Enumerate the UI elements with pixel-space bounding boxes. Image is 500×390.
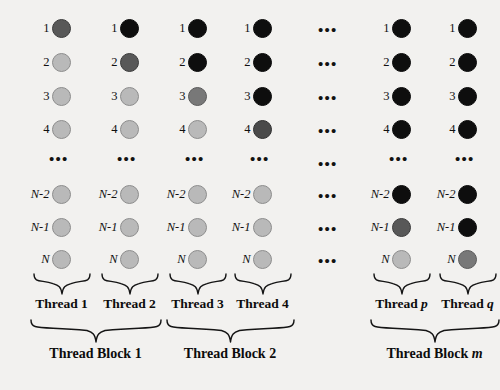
element-index-label: N-1	[232, 221, 251, 234]
element-dot-light	[188, 120, 207, 139]
grid-cell: N-2	[7, 183, 71, 205]
element-dot-black	[253, 87, 272, 106]
thread-brace	[169, 273, 227, 295]
grid-cell: 3	[413, 85, 477, 107]
element-dot-light	[188, 218, 207, 237]
thread-block-label-block-1: Thread Block 1	[26, 347, 166, 361]
grid-cell: 4	[208, 118, 272, 140]
element-dot-light	[253, 250, 272, 269]
element-dot-black	[253, 53, 272, 72]
grid-cell: N	[347, 248, 411, 270]
element-dot-black	[392, 87, 411, 106]
grid-cell: 1	[75, 17, 139, 39]
element-index-label: 2	[383, 56, 389, 69]
thread-block-label-block-m: Thread Block m	[365, 347, 500, 361]
element-index-label: 1	[383, 22, 389, 35]
grid-cell: N	[413, 248, 477, 270]
column-ellipsis: •••	[318, 157, 337, 172]
element-dot-black	[458, 218, 477, 237]
grid-cell: N-2	[347, 183, 411, 205]
element-dot-light	[188, 250, 207, 269]
element-index-label: N-1	[99, 221, 118, 234]
element-index-label: 1	[43, 22, 49, 35]
element-dot-black	[458, 185, 477, 204]
grid-cell: 1	[143, 17, 207, 39]
element-index-label: N-2	[99, 188, 118, 201]
element-index-label: 2	[111, 56, 117, 69]
element-dot-light	[52, 250, 71, 269]
element-index-label: 3	[449, 90, 455, 103]
column-ellipsis: •••	[318, 23, 337, 38]
column-row-ellipsis: •••	[117, 152, 136, 167]
grid-cell: 1	[7, 17, 71, 39]
column-row-ellipsis: •••	[250, 152, 269, 167]
element-index-label: 2	[449, 56, 455, 69]
thread-label-thread-4: Thread 4	[217, 297, 309, 311]
element-index-label: N-2	[437, 188, 456, 201]
element-index-label: N	[109, 253, 117, 266]
element-dot-light	[120, 120, 139, 139]
grid-cell: 4	[413, 118, 477, 140]
thread-block-brace	[30, 319, 162, 343]
element-index-label: 1	[179, 22, 185, 35]
element-dot-light	[52, 53, 71, 72]
element-dot-black	[458, 19, 477, 38]
grid-cell: 3	[143, 85, 207, 107]
grid-cell: N-1	[75, 216, 139, 238]
thread-brace	[101, 273, 159, 295]
element-dot-light	[253, 185, 272, 204]
element-index-label: 1	[244, 22, 250, 35]
column-ellipsis: •••	[318, 91, 337, 106]
column-row-ellipsis: •••	[49, 152, 68, 167]
element-dot-black	[392, 120, 411, 139]
grid-cell: N-2	[413, 183, 477, 205]
element-dot-mid2	[188, 87, 207, 106]
grid-cell: 1	[208, 17, 272, 39]
element-dot-black	[392, 53, 411, 72]
element-dot-black	[392, 19, 411, 38]
element-index-label: 3	[111, 90, 117, 103]
grid-cell: 2	[413, 51, 477, 73]
grid-cell: N-2	[208, 183, 272, 205]
element-dot-black	[392, 185, 411, 204]
grid-cell: N-1	[347, 216, 411, 238]
element-index-label: N-1	[167, 221, 186, 234]
element-index-label: 1	[111, 22, 117, 35]
grid-cell: 4	[7, 118, 71, 140]
thread-brace	[234, 273, 292, 295]
grid-cell: N-1	[143, 216, 207, 238]
element-index-label: N-2	[232, 188, 251, 201]
element-dot-light	[120, 250, 139, 269]
element-index-label: 4	[179, 123, 185, 136]
element-index-label: N	[177, 253, 185, 266]
thread-block-brace	[370, 319, 500, 343]
element-dot-light	[52, 120, 71, 139]
element-index-label: 4	[43, 123, 49, 136]
grid-cell: N	[75, 248, 139, 270]
element-dot-light	[392, 250, 411, 269]
grid-cell: 4	[143, 118, 207, 140]
grid-cell: 4	[75, 118, 139, 140]
column-ellipsis: •••	[318, 254, 337, 269]
element-dot-black	[253, 19, 272, 38]
column-ellipsis: •••	[318, 222, 337, 237]
element-index-label: 3	[179, 90, 185, 103]
grid-cell: 3	[75, 85, 139, 107]
grid-cell: 4	[347, 118, 411, 140]
element-index-label: 4	[383, 123, 389, 136]
element-dot-dark	[52, 19, 71, 38]
grid-cell: 2	[143, 51, 207, 73]
thread-block-label-block-2: Thread Block 2	[160, 347, 300, 361]
grid-cell: N	[143, 248, 207, 270]
grid-cell: N-1	[413, 216, 477, 238]
grid-cell: N-2	[143, 183, 207, 205]
grid-cell: N	[208, 248, 272, 270]
grid-cell: 3	[347, 85, 411, 107]
grid-cell: N	[7, 248, 71, 270]
thread-label-thread-q: Thread q	[422, 297, 500, 311]
element-index-label: N-1	[437, 221, 456, 234]
element-dot-dark2	[253, 120, 272, 139]
element-index-label: 1	[449, 22, 455, 35]
thread-brace	[373, 273, 431, 295]
grid-cell: 2	[208, 51, 272, 73]
